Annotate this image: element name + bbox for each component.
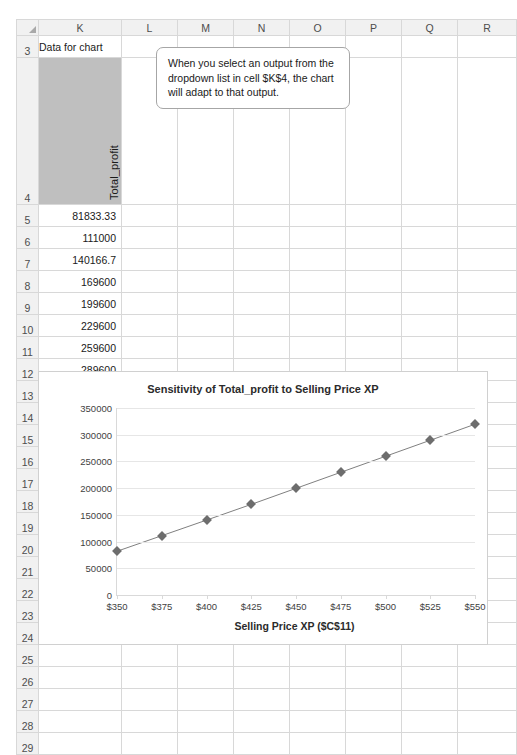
row-header-3[interactable]: 3 [17, 36, 39, 58]
cell-L9[interactable] [122, 293, 178, 315]
cell-L7[interactable] [122, 249, 178, 271]
table-row[interactable]: 11 259600 [17, 337, 517, 359]
cell-M8[interactable] [178, 271, 234, 293]
cell-R26[interactable] [458, 667, 517, 689]
cell-M25[interactable] [178, 645, 234, 667]
cell-K8[interactable]: 169600 [39, 271, 122, 293]
table-row[interactable]: 7 140166.7 [17, 249, 517, 271]
cell-Q28[interactable] [402, 711, 458, 733]
cell-O27[interactable] [290, 689, 346, 711]
cell-R6[interactable] [458, 227, 517, 249]
cell-K26[interactable] [39, 667, 122, 689]
row-header-5[interactable]: 5 [17, 205, 39, 227]
table-row[interactable]: 26 [17, 667, 517, 689]
cell-Q5[interactable] [402, 205, 458, 227]
cell-N26[interactable] [234, 667, 290, 689]
cell-K27[interactable] [39, 689, 122, 711]
row-header-10[interactable]: 10 [17, 315, 39, 337]
cell-R11[interactable] [458, 337, 517, 359]
cell-L6[interactable] [122, 227, 178, 249]
row-header-12[interactable]: 12 [17, 359, 39, 381]
table-row[interactable]: 5 81833.33 [17, 205, 517, 227]
cell-Q7[interactable] [402, 249, 458, 271]
cell-P4[interactable] [346, 58, 402, 205]
table-row[interactable]: 27 [17, 689, 517, 711]
cell-K11[interactable]: 259600 [39, 337, 122, 359]
cell-N29[interactable] [234, 733, 290, 755]
cell-M9[interactable] [178, 293, 234, 315]
cell-L29[interactable] [122, 733, 178, 755]
row-header-13[interactable]: 13 [17, 381, 39, 403]
row-header-16[interactable]: 16 [17, 447, 39, 469]
cell-L8[interactable] [122, 271, 178, 293]
column-header-L[interactable]: L [122, 20, 178, 36]
cell-Q26[interactable] [402, 667, 458, 689]
table-row[interactable]: 6 111000 [17, 227, 517, 249]
cell-K28[interactable] [39, 711, 122, 733]
row-header-24[interactable]: 24 [17, 623, 39, 645]
cell-M26[interactable] [178, 667, 234, 689]
cell-N10[interactable] [234, 315, 290, 337]
cell-K6[interactable]: 111000 [39, 227, 122, 249]
row-header-11[interactable]: 11 [17, 337, 39, 359]
cell-Q6[interactable] [402, 227, 458, 249]
cell-O10[interactable] [290, 315, 346, 337]
row-header-17[interactable]: 17 [17, 469, 39, 491]
cell-P26[interactable] [346, 667, 402, 689]
cell-P28[interactable] [346, 711, 402, 733]
column-header-R[interactable]: R [458, 20, 517, 36]
row-header-26[interactable]: 26 [17, 667, 39, 689]
cell-M6[interactable] [178, 227, 234, 249]
cell-R9[interactable] [458, 293, 517, 315]
table-row[interactable]: 29 [17, 733, 517, 755]
table-row[interactable]: 8 169600 [17, 271, 517, 293]
cell-R10[interactable] [458, 315, 517, 337]
cell-K10[interactable]: 229600 [39, 315, 122, 337]
cell-M10[interactable] [178, 315, 234, 337]
cell-M11[interactable] [178, 337, 234, 359]
row-header-19[interactable]: 19 [17, 513, 39, 535]
cell-L28[interactable] [122, 711, 178, 733]
cell-M5[interactable] [178, 205, 234, 227]
row-header-14[interactable]: 14 [17, 403, 39, 425]
row-header-28[interactable]: 28 [17, 711, 39, 733]
cell-Q10[interactable] [402, 315, 458, 337]
cell-K4-output-selector[interactable]: Total_profit [39, 58, 122, 205]
table-row[interactable]: 28 [17, 711, 517, 733]
cell-O8[interactable] [290, 271, 346, 293]
column-header-O[interactable]: O [290, 20, 346, 36]
cell-K7[interactable]: 140166.7 [39, 249, 122, 271]
cell-O25[interactable] [290, 645, 346, 667]
select-all-corner[interactable] [17, 20, 39, 36]
cell-O9[interactable] [290, 293, 346, 315]
cell-M7[interactable] [178, 249, 234, 271]
cell-K5[interactable]: 81833.33 [39, 205, 122, 227]
row-header-15[interactable]: 15 [17, 425, 39, 447]
sensitivity-chart[interactable]: Sensitivity of Total_profit to Selling P… [38, 371, 488, 645]
cell-N28[interactable] [234, 711, 290, 733]
row-header-29[interactable]: 29 [17, 733, 39, 755]
cell-Q27[interactable] [402, 689, 458, 711]
cell-N25[interactable] [234, 645, 290, 667]
table-row[interactable]: 9 199600 [17, 293, 517, 315]
column-header-P[interactable]: P [346, 20, 402, 36]
row-header-25[interactable]: 25 [17, 645, 39, 667]
cell-O7[interactable] [290, 249, 346, 271]
cell-L26[interactable] [122, 667, 178, 689]
cell-O29[interactable] [290, 733, 346, 755]
cell-N8[interactable] [234, 271, 290, 293]
cell-K3[interactable]: Data for chart [39, 36, 122, 58]
cell-O26[interactable] [290, 667, 346, 689]
cell-R29[interactable] [458, 733, 517, 755]
cell-P5[interactable] [346, 205, 402, 227]
cell-L10[interactable] [122, 315, 178, 337]
table-row[interactable]: 10 229600 [17, 315, 517, 337]
cell-Q8[interactable] [402, 271, 458, 293]
cell-N7[interactable] [234, 249, 290, 271]
cell-L11[interactable] [122, 337, 178, 359]
cell-R4[interactable] [458, 58, 517, 205]
cell-R5[interactable] [458, 205, 517, 227]
cell-N5[interactable] [234, 205, 290, 227]
row-header-23[interactable]: 23 [17, 601, 39, 623]
cell-P29[interactable] [346, 733, 402, 755]
